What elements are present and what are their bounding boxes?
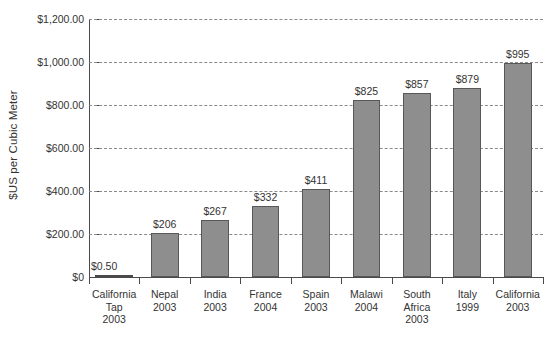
bar-value-label: $995 — [493, 48, 543, 60]
bar-value-label: $267 — [190, 205, 240, 217]
bar-slot: $825 — [341, 19, 391, 277]
bar-slot: $411 — [291, 19, 341, 277]
x-axis-tick-label: Italy1999 — [442, 288, 492, 313]
bar-value-label: $411 — [291, 174, 341, 186]
y-axis-tick-labels: $1,200.00$1,000.00$800.00$600.00$400.00$… — [10, 19, 84, 277]
bar-value-label: $879 — [442, 73, 492, 85]
bar[interactable] — [403, 93, 431, 277]
y-axis-tick-label: $1,200.00 — [14, 13, 84, 25]
x-axis-tick-label-line: France — [240, 288, 290, 301]
x-axis-tick-mark — [291, 277, 292, 284]
y-axis-tick-label: $600.00 — [14, 142, 84, 154]
x-axis-tick-label-line: 1999 — [442, 301, 492, 314]
x-axis-tick-label: Malawi2004 — [341, 288, 391, 313]
bar[interactable] — [201, 220, 229, 277]
y-axis-tick-label: $400.00 — [14, 185, 84, 197]
bar-slot: $0.50 — [89, 19, 139, 277]
bar-value-label: $332 — [240, 191, 290, 203]
x-axis-tick-mark — [493, 277, 494, 284]
x-axis-tick-label-line: Africa — [392, 301, 442, 314]
bar-value-label: $206 — [139, 218, 189, 230]
x-axis-tick-label-line: 2004 — [341, 301, 391, 314]
x-axis-tick-label: India2003 — [190, 288, 240, 313]
x-axis-tick-label-line: California — [89, 288, 139, 301]
bar-slot: $857 — [392, 19, 442, 277]
x-axis-tick-label: Nepal2003 — [139, 288, 189, 313]
x-axis-tick-label: CaliforniaTap2003 — [89, 288, 139, 326]
bar-value-label: $857 — [392, 78, 442, 90]
bar-slot: $267 — [190, 19, 240, 277]
bar[interactable] — [453, 88, 481, 277]
x-axis-tick-label-line: California — [493, 288, 543, 301]
x-axis-tick-label-line: Italy — [442, 288, 492, 301]
x-axis-tick-mark — [341, 277, 342, 284]
x-axis-tick-label-line: India — [190, 288, 240, 301]
x-axis-tick-label-line: 2003 — [392, 313, 442, 326]
bar[interactable] — [252, 206, 280, 277]
x-axis-tick-label: Spain2003 — [291, 288, 341, 313]
bar-slot: $332 — [240, 19, 290, 277]
bar-chart: $US per Cubic Meter $1,200.00$1,000.00$8… — [0, 0, 548, 337]
bar[interactable] — [302, 189, 330, 277]
x-axis-tick-label-line: Tap — [89, 301, 139, 314]
y-axis-tick-label: $1,000.00 — [14, 56, 84, 68]
x-axis-tick-label-line: Nepal — [139, 288, 189, 301]
x-axis-tick-label-line: Spain — [291, 288, 341, 301]
bar[interactable] — [151, 233, 179, 277]
x-axis-tick-labels: CaliforniaTap2003Nepal2003India2003Franc… — [89, 288, 543, 336]
bar-value-label: $0.50 — [89, 260, 141, 272]
x-axis-tick-mark — [442, 277, 443, 284]
x-axis-tick-mark — [543, 277, 544, 284]
y-axis-tick-label: $200.00 — [14, 228, 84, 240]
x-axis-tick-label-line: Malawi — [341, 288, 391, 301]
x-axis-tick-label-line: 2003 — [493, 301, 543, 314]
x-axis-tick-label: California2003 — [493, 288, 543, 313]
x-axis-tick-mark — [240, 277, 241, 284]
x-axis-tick-label-line: South — [392, 288, 442, 301]
x-axis-tick-mark — [139, 277, 140, 284]
x-axis-tick-label-line: 2004 — [240, 301, 290, 314]
x-axis-tick-marks — [89, 277, 543, 284]
plot-area: $0.50$206$267$332$411$825$857$879$995 — [89, 19, 543, 277]
x-axis-tick-label: SouthAfrica2003 — [392, 288, 442, 326]
x-axis-tick-label: France2004 — [240, 288, 290, 313]
bar[interactable] — [504, 63, 532, 277]
x-axis-tick-label-line: 2003 — [291, 301, 341, 314]
bar-value-label: $825 — [341, 85, 391, 97]
x-axis-tick-mark — [190, 277, 191, 284]
x-axis-tick-label-line: 2003 — [139, 301, 189, 314]
bar[interactable] — [353, 100, 381, 277]
bar-slot: $879 — [442, 19, 492, 277]
y-axis-tick-label: $0 — [14, 271, 84, 283]
x-axis-tick-mark — [89, 277, 90, 284]
x-axis-tick-mark — [392, 277, 393, 284]
bar-slot: $206 — [139, 19, 189, 277]
bar-slot: $995 — [493, 19, 543, 277]
y-axis-tick-label: $800.00 — [14, 99, 84, 111]
x-axis-tick-label-line: 2003 — [190, 301, 240, 314]
x-axis-tick-label-line: 2003 — [89, 313, 139, 326]
